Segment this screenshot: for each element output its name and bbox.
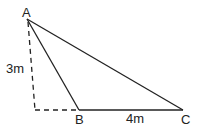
label-a: A — [22, 5, 31, 20]
edge-a-b — [27, 19, 79, 110]
label-b: B — [75, 112, 84, 127]
edge-a-c — [27, 19, 183, 110]
label-base: 4m — [126, 111, 144, 126]
height-dashed-line — [28, 22, 35, 110]
label-height: 3m — [6, 61, 24, 76]
triangle-diagram: A B C 3m 4m — [0, 0, 198, 130]
label-c: C — [181, 112, 190, 127]
